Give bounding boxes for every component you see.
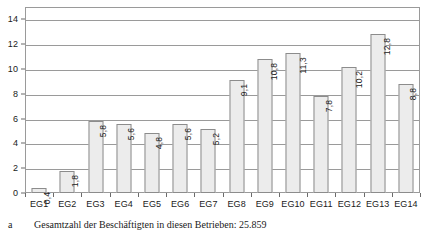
bar-slot: 9,1: [223, 7, 251, 193]
x-tick-label: EG7: [194, 199, 222, 209]
x-tick-mark: [223, 193, 224, 197]
y-tick-label: 12: [8, 39, 18, 49]
y-axis: 02468101214: [0, 7, 25, 193]
bar-value-label: 10,2: [354, 70, 364, 87]
x-tick-label: EG12: [335, 199, 363, 209]
bar[interactable]: 12,8: [370, 34, 385, 193]
x-tick-label: EG2: [53, 199, 81, 209]
bar-value-label: 5,8: [98, 125, 108, 137]
y-tick-label: 2: [13, 163, 18, 173]
y-tick-label: 10: [8, 64, 18, 74]
x-tick-mark: [251, 193, 252, 197]
bar[interactable]: 8,8: [398, 84, 413, 193]
x-tick-mark: [138, 193, 139, 197]
bar[interactable]: 9,1: [229, 80, 244, 193]
bar-slot: 10,8: [251, 7, 279, 193]
bar-slot: 5,6: [166, 7, 194, 193]
x-tick-mark: [166, 193, 167, 197]
bar-chart-figure: 02468101214 0,41,85,85,64,85,65,29,110,8…: [0, 0, 430, 239]
bar-value-label: 11,3: [298, 57, 308, 74]
bar-slot: 12,8: [364, 7, 392, 193]
x-tick-mark: [307, 193, 308, 197]
bar-slot: 7,8: [307, 7, 335, 193]
bar-slot: 5,2: [194, 7, 222, 193]
y-tick-label: 14: [8, 14, 18, 24]
bar[interactable]: 5,2: [201, 129, 216, 193]
x-tick-mark: [279, 193, 280, 197]
bar-slot: 10,2: [335, 7, 363, 193]
bar-slot: 8,8: [392, 7, 420, 193]
bar-value-label: 1,8: [69, 174, 79, 186]
x-tick-mark: [335, 193, 336, 197]
x-tick-mark: [420, 193, 421, 197]
footnote-text: Gesamtzahl der Beschäftigten in diesen B…: [34, 219, 428, 230]
y-tick-label: 0: [13, 188, 18, 198]
x-tick-mark: [25, 193, 26, 197]
x-tick-label: EG3: [81, 199, 109, 209]
bar[interactable]: 5,6: [173, 124, 188, 193]
x-tick-label: EG11: [307, 199, 335, 209]
x-tick-mark: [53, 193, 54, 197]
x-tick-label: EG6: [166, 199, 194, 209]
bar[interactable]: 5,8: [88, 121, 103, 193]
x-tick-label: EG4: [110, 199, 138, 209]
bar-value-label: 5,6: [182, 127, 192, 139]
bars-layer: 0,41,85,85,64,85,65,29,110,811,37,810,21…: [25, 7, 420, 193]
bar-slot: 11,3: [279, 7, 307, 193]
bar-value-label: 12,8: [382, 38, 392, 55]
x-tick-label: EG9: [251, 199, 279, 209]
x-tick-label: EG10: [279, 199, 307, 209]
bar[interactable]: 10,8: [257, 59, 272, 193]
bar-value-label: 9,1: [239, 84, 249, 96]
bar[interactable]: 5,6: [116, 124, 131, 193]
x-tick-label: EG14: [392, 199, 420, 209]
bar[interactable]: 11,3: [286, 53, 301, 193]
bar-value-label: 5,2: [210, 132, 220, 144]
footnote-marker: a: [8, 219, 34, 230]
bar[interactable]: 7,8: [314, 96, 329, 193]
bar[interactable]: 4,8: [144, 133, 159, 193]
bar-value-label: 10,8: [269, 63, 279, 80]
x-tick-label: EG13: [364, 199, 392, 209]
y-tick-label: 8: [13, 89, 18, 99]
bar-value-label: 8,8: [408, 88, 418, 100]
bar-slot: 5,8: [81, 7, 109, 193]
bar-slot: 4,8: [138, 7, 166, 193]
bar-value-label: 7,8: [323, 100, 333, 112]
footnote: a Gesamtzahl der Beschäftigten in diesen…: [8, 219, 428, 235]
x-tick-mark: [81, 193, 82, 197]
x-tick-label: EG1: [25, 199, 53, 209]
bar-slot: 1,8: [53, 7, 81, 193]
x-tick-label: EG8: [223, 199, 251, 209]
x-tick-mark: [392, 193, 393, 197]
y-tick-label: 6: [13, 114, 18, 124]
x-tick-label: EG5: [138, 199, 166, 209]
bar[interactable]: 10,2: [342, 67, 357, 193]
x-axis: EG1EG2EG3EG4EG5EG6EG7EG8EG9EG10EG11EG12E…: [25, 193, 420, 215]
x-tick-mark: [364, 193, 365, 197]
bar-value-label: 4,8: [154, 137, 164, 149]
bar[interactable]: 1,8: [60, 171, 75, 193]
y-tick-label: 4: [13, 138, 18, 148]
x-tick-mark: [110, 193, 111, 197]
bar-slot: 0,4: [25, 7, 53, 193]
bar-slot: 5,6: [110, 7, 138, 193]
bar-value-label: 5,6: [126, 127, 136, 139]
x-tick-mark: [194, 193, 195, 197]
